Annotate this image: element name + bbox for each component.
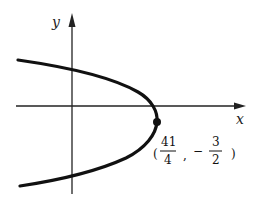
vertex-close-paren: ) (231, 147, 236, 161)
vertex-x-denominator: 4 (164, 153, 172, 167)
parabola-graph: x y ( 41 4 , − 3 2 ) (0, 0, 280, 206)
x-axis-label: x (236, 111, 244, 127)
vertex-comma: , (183, 148, 187, 162)
parabola-curve (18, 60, 157, 186)
x-axis-arrowhead (234, 103, 246, 110)
vertex-point (153, 118, 161, 126)
vertex-label: ( 41 4 , − 3 2 ) (153, 135, 236, 167)
vertex-y-sign: − (193, 144, 203, 158)
vertex-y-denominator: 2 (212, 153, 220, 167)
y-axis-arrowhead (69, 13, 76, 27)
vertex-x-numerator: 41 (161, 135, 176, 149)
vertex-y-numerator: 3 (212, 135, 220, 149)
y-axis-label: y (51, 14, 61, 30)
vertex-open-paren: ( (153, 147, 158, 161)
